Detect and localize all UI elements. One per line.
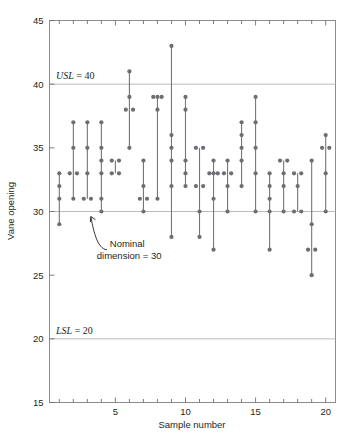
data-point [194,184,198,188]
data-point [99,197,103,201]
data-point [169,158,173,162]
x-tick-label: 20 [320,406,331,417]
data-point [160,95,164,99]
data-point [99,146,103,150]
y-tick-label: 35 [33,142,44,153]
y-tick-label: 15 [33,397,44,408]
data-point [155,108,159,112]
data-point [197,209,201,213]
data-point [253,146,257,150]
data-point [138,197,142,201]
svg-text:USL = 40: USL = 40 [56,70,94,81]
data-point [225,158,229,162]
data-point [225,209,229,213]
data-point [99,209,103,213]
y-axis-tick-labels: 15202530354045 [33,15,44,408]
data-point [253,171,257,175]
data-point [324,133,328,137]
svg-text:Sample number: Sample number [158,419,225,430]
data-point [268,248,272,252]
data-point [292,171,296,175]
data-point [155,197,159,201]
data-point [57,222,61,226]
data-point [306,248,310,252]
data-point [71,197,75,201]
lsl-reference-label: LSL = 20 [55,325,93,336]
data-point [127,95,131,99]
data-point [324,171,328,175]
data-point [296,184,300,188]
data-point [299,209,303,213]
data-point [285,158,289,162]
data-point [194,146,198,150]
data-point [99,158,103,162]
data-point [141,184,145,188]
data-point [268,209,272,213]
x-axis-title: Sample number [158,419,225,430]
svg-text:Nominal: Nominal [110,238,145,249]
data-point [85,120,89,124]
data-point [89,197,93,201]
y-tick-label: 30 [33,206,44,217]
data-point [110,171,114,175]
data-point [197,235,201,239]
data-point [310,158,314,162]
data-point [211,248,215,252]
data-point [57,197,61,201]
data-point [216,171,220,175]
data-point [253,209,257,213]
data-point [110,158,114,162]
data-point [327,146,331,150]
data-point [169,235,173,239]
data-point [82,197,86,201]
data-point [71,146,75,150]
data-point [183,158,187,162]
data-point [207,171,211,175]
y-axis-ticks [50,21,55,403]
data-point [183,95,187,99]
data-point [268,197,272,201]
data-point [324,209,328,213]
svg-text:LSL = 20: LSL = 20 [55,325,93,336]
data-point [313,248,317,252]
data-point [131,108,135,112]
data-point [169,184,173,188]
y-tick-label: 45 [33,15,44,26]
chart-canvas: 15202530354045 5101520 USL = 40 LSL = 20… [0,0,357,442]
data-point [310,273,314,277]
data-point [282,184,286,188]
data-point [211,171,215,175]
data-point [229,171,233,175]
data-point [292,209,296,213]
data-point [278,158,282,162]
data-point [268,171,272,175]
nominal-annotation: Nominal dimension = 30 [90,217,161,262]
data-point [268,184,272,188]
data-point [57,184,61,188]
data-point [211,158,215,162]
vane-opening-control-chart: 15202530354045 5101520 USL = 40 LSL = 20… [0,0,357,442]
x-tick-label: 10 [180,406,191,417]
data-point [169,146,173,150]
y-tick-label: 40 [33,79,44,90]
usl-reference-label: USL = 40 [56,70,94,81]
data-point [183,184,187,188]
data-point [117,158,121,162]
data-point [127,146,131,150]
data-point [201,184,205,188]
data-point [57,171,61,175]
data-point [183,171,187,175]
data-point [239,158,243,162]
data-point [282,209,286,213]
data-point [320,146,324,150]
x-tick-label: 5 [113,406,118,417]
data-point [183,108,187,112]
y-axis-title: Vane opening [5,182,16,240]
data-point [155,95,159,99]
data-point [169,133,173,137]
data-point [99,120,103,124]
data-point [75,171,79,175]
data-point [310,222,314,226]
data-point [253,95,257,99]
data-point [85,171,89,175]
